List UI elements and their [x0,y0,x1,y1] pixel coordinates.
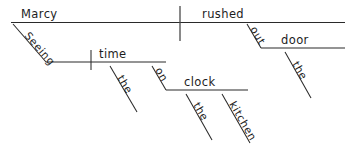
word-verb: rushed [202,7,244,21]
sentence-diagram-canvas: Marcy rushed Seeing time the on clock th… [0,0,356,149]
word-time-article: the [115,73,135,96]
word-prep-out: out [248,24,268,47]
word-participle-object: time [99,47,127,61]
word-clock-modifier: kitchen [227,99,259,143]
word-subject: Marcy [21,7,58,21]
sentence-diagram: Marcy rushed Seeing time the on clock th… [0,0,356,149]
word-clock: clock [184,75,216,89]
word-participle: Seeing [22,29,57,67]
word-door: door [281,33,309,47]
word-door-article: the [290,59,310,82]
word-prep-on: on [153,65,171,84]
word-clock-article: the [191,100,211,123]
